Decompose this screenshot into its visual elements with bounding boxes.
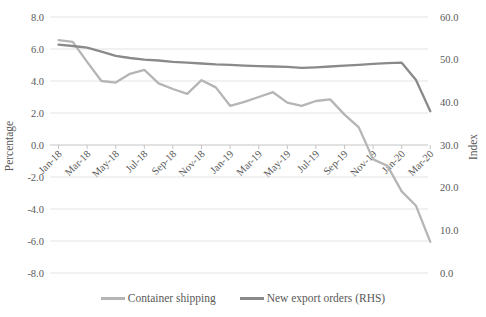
chart-canvas: Mar-20Jan-20Nov-19Sep-19Jul-19May-19Mar-… <box>0 0 486 317</box>
y-axis-left-tick-label: 8.0 <box>31 12 44 23</box>
y-axis-right-tick-label: 50.0 <box>440 54 458 65</box>
y-axis-left-tick-label: 6.0 <box>31 44 44 55</box>
right-axis-title: Index <box>467 134 479 160</box>
y-axis-right-tick-label: 60.0 <box>440 12 458 23</box>
y-axis-right-tick-label: 30.0 <box>440 140 458 151</box>
legend-item-new-export-orders: New export orders (RHS) <box>240 292 386 304</box>
y-axis-right-tick-label: 0.0 <box>440 268 453 279</box>
x-axis-tick-label: Jan-19 <box>208 148 236 176</box>
y-axis-left-tick-label: -4.0 <box>27 204 44 215</box>
y-axis-left-tick-label: -2.0 <box>27 172 44 183</box>
x-axis-tick-label: May-18 <box>90 148 121 179</box>
x-axis-tick-label: Sep-18 <box>149 148 178 177</box>
legend-label-new-export-orders: New export orders (RHS) <box>267 292 386 304</box>
x-axis-tick-label: Mar-20 <box>406 148 436 178</box>
y-axis-left-tick-label: 2.0 <box>31 108 44 119</box>
legend-swatch-new-export-orders <box>240 297 264 300</box>
left-axis-title: Percentage <box>3 121 16 171</box>
x-axis-tick-label: Jan-20 <box>380 148 408 176</box>
x-axis-tick-label: Nov-19 <box>348 148 378 178</box>
x-axis-tick-label: Mar-18 <box>63 148 93 178</box>
legend-swatch-container-shipping <box>101 297 125 300</box>
y-axis-right-tick-label: 40.0 <box>440 97 458 108</box>
y-axis-right-tick-label: 10.0 <box>440 225 458 236</box>
x-axis-tick-label: May-19 <box>261 148 292 179</box>
plot-area: Mar-20Jan-20Nov-19Sep-19Jul-19May-19Mar-… <box>27 12 458 279</box>
y-axis-left-tick-label: -6.0 <box>27 236 44 247</box>
y-axis-right-tick-label: 20.0 <box>440 182 458 193</box>
y-axis-left-tick-label: -8.0 <box>27 268 44 279</box>
legend-item-container-shipping: Container shipping <box>101 292 216 304</box>
x-axis-tick-label: Mar-19 <box>234 148 264 178</box>
legend: Container shipping New export orders (RH… <box>0 290 486 306</box>
x-axis-tick-label: Jul-18 <box>123 148 149 174</box>
x-axis-tick-label: Nov-18 <box>176 148 206 178</box>
legend-label-container-shipping: Container shipping <box>128 292 216 304</box>
x-axis-tick-label: Jul-19 <box>295 148 321 174</box>
y-axis-left-tick-label: 4.0 <box>31 76 44 87</box>
x-axis-tick-label: Sep-19 <box>321 148 350 177</box>
y-axis-left-tick-label: 0.0 <box>31 140 44 151</box>
chart: Mar-20Jan-20Nov-19Sep-19Jul-19May-19Mar-… <box>0 0 486 317</box>
series-line-container-shipping <box>59 40 431 242</box>
